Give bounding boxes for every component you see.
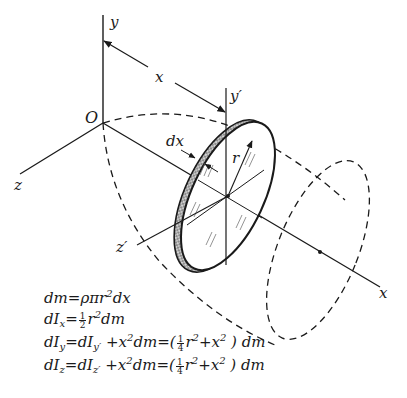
eq-term: dI	[44, 356, 60, 374]
eq-sign: =	[65, 333, 78, 351]
fraction-one-half: 12	[79, 312, 87, 329]
dx-label: dx	[166, 132, 185, 150]
eq-term: r	[185, 333, 192, 351]
dx-arrow-left	[181, 150, 195, 158]
z-axis	[20, 123, 103, 174]
equation-dIz: dIz=dIz′ +x2dm=(14r2+x2 ) dm	[44, 351, 265, 379]
eq-term: ) dm	[226, 333, 265, 351]
eq-term: r	[185, 356, 192, 374]
eq-term: dI	[44, 333, 60, 351]
eq-term: dm=(	[133, 356, 175, 374]
eq-sign: =	[65, 356, 78, 374]
y-axis-label: y	[109, 13, 119, 31]
eq-term: dI	[78, 333, 94, 351]
x-dimension-label: x	[155, 68, 164, 86]
fraction-one-quarter: 14	[176, 358, 184, 375]
eq-term: +x	[198, 356, 219, 374]
eq-sign: =	[65, 310, 78, 328]
z-prime-axis-label: z′	[115, 238, 128, 256]
x-dimension-arrow-right	[175, 83, 225, 112]
eq-term: r	[87, 310, 94, 328]
y-prime-axis-label: y′	[229, 87, 242, 105]
radius-label: r	[232, 149, 240, 167]
eq-term: +x	[101, 333, 127, 351]
x-axis-label: x	[379, 284, 388, 302]
fraction-one-quarter: 14	[177, 335, 185, 352]
eq-term: +x	[100, 356, 126, 374]
eq-term: dm=(	[133, 333, 175, 351]
eq-term: dI	[77, 356, 93, 374]
eq-term: dm	[101, 310, 125, 328]
fraction-denominator: 4	[176, 367, 184, 375]
centroid-dot	[318, 250, 322, 254]
eq-term: dI	[44, 310, 60, 328]
x-dimension-arrow-left	[104, 41, 148, 67]
eq-term: ) dm	[226, 356, 265, 374]
eq-term: +x	[199, 333, 220, 351]
z-axis-label: z	[13, 176, 22, 194]
origin-label: O	[85, 108, 98, 127]
